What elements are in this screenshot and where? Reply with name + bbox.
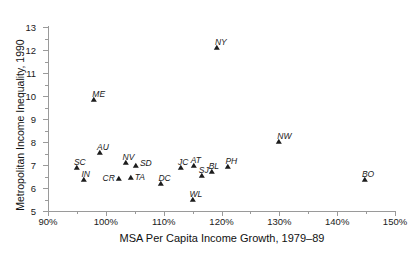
- data-point-label: NY: [215, 37, 227, 47]
- plot-area: [48, 27, 395, 211]
- y-tick-minor: [45, 200, 48, 201]
- x-tick-label: 120%: [209, 216, 233, 227]
- x-tick-minor: [366, 211, 367, 214]
- y-tick-label: 12: [25, 45, 36, 56]
- y-tick-minor: [45, 85, 48, 86]
- data-point-marker: [133, 163, 139, 168]
- y-tick-major: [43, 188, 48, 189]
- scatter-plot-figure: 90%100%110%120%130%140%150% 567891011121…: [0, 0, 408, 254]
- data-point-marker: [115, 176, 121, 181]
- x-tick-label: 130%: [267, 216, 291, 227]
- x-tick-minor: [193, 211, 194, 214]
- data-point-label: BL: [209, 161, 219, 171]
- y-tick-major: [43, 73, 48, 74]
- y-tick-label: 11: [26, 68, 36, 79]
- y-tick-minor: [45, 154, 48, 155]
- y-tick-label: 13: [25, 22, 36, 33]
- x-tick-minor: [250, 211, 251, 214]
- y-tick-minor: [45, 62, 48, 63]
- data-point-label: SD: [140, 158, 152, 168]
- y-tick-major: [43, 119, 48, 120]
- y-tick-major: [43, 96, 48, 97]
- x-tick-label: 150%: [383, 216, 407, 227]
- y-tick-label: 6: [31, 183, 36, 194]
- data-point-label: JC: [178, 157, 188, 167]
- y-tick-label: 9: [31, 114, 36, 125]
- y-tick-minor: [45, 131, 48, 132]
- data-point-label: NV: [123, 152, 135, 162]
- y-tick-major: [43, 27, 48, 28]
- data-point-label: PH: [225, 156, 237, 166]
- y-tick-major: [43, 165, 48, 166]
- y-tick-label: 10: [25, 91, 36, 102]
- data-point-label: DC: [158, 173, 170, 183]
- x-tick-minor: [135, 211, 136, 214]
- data-point-label: IN: [81, 169, 90, 179]
- y-tick-label: 7: [31, 160, 36, 171]
- x-tick-minor: [77, 211, 78, 214]
- y-axis-title: Metropolitan Income Inequality, 1990: [14, 25, 26, 225]
- data-point-label: AT: [191, 155, 201, 165]
- x-tick-minor: [308, 211, 309, 214]
- data-point-label: TA: [135, 172, 145, 182]
- y-axis-line: [48, 26, 49, 212]
- data-point-label: SJ: [199, 165, 209, 175]
- y-tick-minor: [45, 177, 48, 178]
- y-tick-major: [43, 211, 48, 212]
- x-tick-label: 90%: [38, 216, 57, 227]
- data-point-label: NW: [277, 131, 291, 141]
- x-tick-label: 140%: [325, 216, 349, 227]
- y-tick-major: [43, 50, 48, 51]
- data-point-marker: [127, 175, 133, 180]
- y-tick-minor: [45, 39, 48, 40]
- x-tick-label: 100%: [94, 216, 118, 227]
- data-point-label: AU: [97, 142, 109, 152]
- x-axis-title: MSA Per Capita Income Growth, 1979–89: [48, 232, 396, 244]
- data-point-label: CR: [103, 173, 115, 183]
- data-point-label: BO: [362, 169, 374, 179]
- y-tick-label: 5: [31, 206, 36, 217]
- y-tick-label: 8: [31, 137, 36, 148]
- data-point-label: ME: [92, 89, 105, 99]
- y-tick-major: [43, 142, 48, 143]
- y-tick-minor: [45, 108, 48, 109]
- data-point-label: WL: [190, 189, 203, 199]
- x-tick-label: 110%: [152, 216, 176, 227]
- data-point-label: SC: [74, 157, 86, 167]
